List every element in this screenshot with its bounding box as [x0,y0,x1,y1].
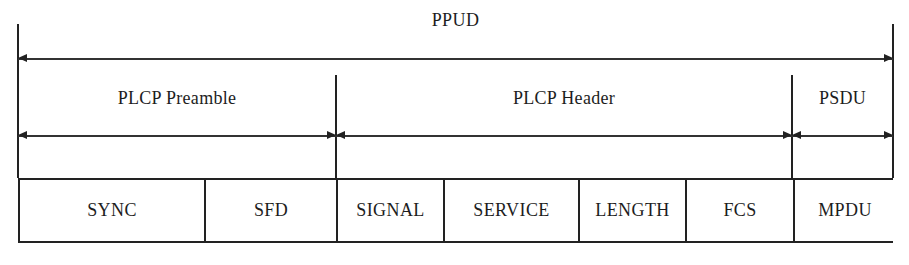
section-label-psdu: PSDU [792,88,893,109]
section-span-arrow-plcp-header [336,131,792,140]
frame-field-sfd: SFD [206,180,338,241]
frame-field-length: LENGTH [580,180,687,241]
frame-field-mpdu: MPDU [795,180,895,241]
section-label-plcp-preamble: PLCP Preamble [18,88,336,109]
section-span-arrow-right-head-icon [884,131,893,139]
frame-field-label: MPDU [818,200,872,221]
section-span-arrow-left-head-icon [336,131,345,139]
frame-field-label: SERVICE [473,200,549,221]
frame-field-service: SERVICE [445,180,580,241]
section-span-arrow-shaft [792,135,893,137]
frame-field-signal: SIGNAL [338,180,445,241]
section-span-arrow-psdu [792,131,893,140]
ppud-span-arrow-shaft [18,58,893,60]
section-span-arrow-right-head-icon [327,131,336,139]
frame-field-label: FCS [723,200,756,221]
frame-field-label: SIGNAL [356,200,424,221]
ppud-frame-structure-diagram: PPUD PLCP Preamble PLCP Header PSDU SYNC… [0,0,909,265]
frame-field-label: SFD [254,200,288,221]
section-span-arrow-left-head-icon [18,131,27,139]
frame-field-sync: SYNC [20,180,206,241]
frame-field-label: LENGTH [595,200,669,221]
frame-field-fcs: FCS [687,180,795,241]
ppud-span-arrow-right-head-icon [884,54,893,62]
ppud-title-label: PPUD [18,10,893,31]
frame-field-box-row: SYNCSFDSIGNALSERVICELENGTHFCSMPDU [18,178,893,243]
section-span-arrow-shaft [336,135,792,137]
section-span-arrow-plcp-preamble [18,131,336,140]
section-span-arrow-left-head-icon [792,131,801,139]
ppud-span-arrow [18,54,893,63]
section-span-arrow-right-head-icon [783,131,792,139]
section-label-plcp-header: PLCP Header [336,88,792,109]
section-span-arrow-shaft [18,135,336,137]
ppud-span-arrow-left-head-icon [18,54,27,62]
frame-field-label: SYNC [87,200,137,221]
